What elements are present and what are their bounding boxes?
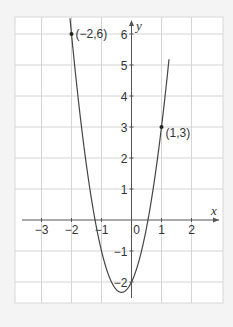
y-axis-label: y — [134, 18, 142, 33]
y-tick-label: −1 — [114, 245, 128, 259]
parabola-chart: −3−2−1012−2−1123456 (−2,6)(1,3) x y — [0, 0, 233, 327]
y-tick-label: 2 — [121, 152, 128, 166]
x-axis-label: x — [210, 203, 217, 218]
x-tick-label: 1 — [158, 223, 165, 237]
x-tick-label: 2 — [188, 223, 195, 237]
x-tick-label: 0 — [133, 223, 140, 237]
x-tick-label: −3 — [35, 223, 49, 237]
y-tick-label: 5 — [121, 59, 128, 73]
y-tick-label: 1 — [121, 183, 128, 197]
y-tick-label: 6 — [121, 28, 128, 42]
y-tick-label: −2 — [114, 276, 128, 290]
point-label: (−2,6) — [76, 27, 108, 41]
y-tick-label: 4 — [121, 90, 128, 104]
x-tick-label: −2 — [65, 223, 79, 237]
y-tick-label: 3 — [121, 121, 128, 135]
point-label: (1,3) — [166, 126, 191, 140]
